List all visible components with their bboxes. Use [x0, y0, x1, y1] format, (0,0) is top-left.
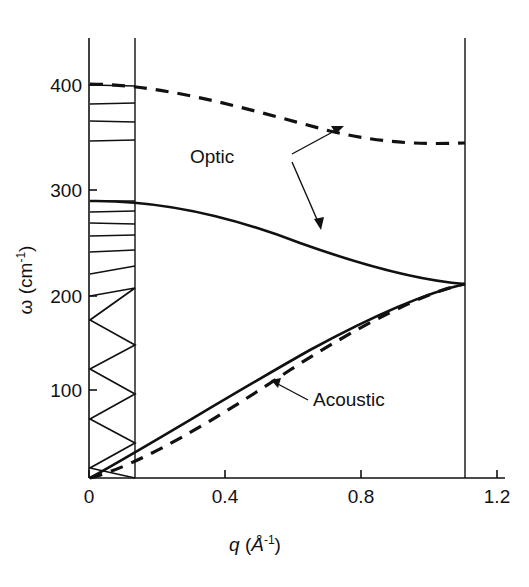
- folded-band-385: [90, 103, 135, 104]
- optic-dashed-curve: [90, 84, 465, 144]
- x-axis-title-symbol: q: [229, 534, 240, 555]
- y-axis-title: ω (cm-1): [14, 246, 36, 315]
- y-tick-labels: 400 300 200 100: [50, 75, 82, 401]
- acoustic-label: Acoustic: [313, 389, 385, 410]
- x-axis-title-paren-open: (: [240, 534, 252, 555]
- y-tick-marks: [89, 85, 97, 390]
- optic-solid-curve: [90, 201, 465, 284]
- y-axis-title-symbol: ω: [15, 299, 36, 314]
- axis-lines: [89, 38, 505, 478]
- svg-text:ω (cm-1): ω (cm-1): [14, 246, 36, 315]
- y-axis-title-paren-open: (: [15, 287, 36, 299]
- x-tick-label-0: 0: [84, 486, 95, 507]
- y-axis-title-paren-close: ): [15, 246, 36, 252]
- x-tick-label-0-8: 0.8: [348, 486, 374, 507]
- folded-optic-bands: [90, 85, 135, 274]
- y-tick-label-300: 300: [50, 180, 82, 201]
- folded-band-259: [90, 250, 135, 252]
- y-tick-label-200: 200: [50, 286, 82, 307]
- folded-band-352: [90, 140, 135, 141]
- x-tick-label-0-4: 0.4: [212, 486, 239, 507]
- x-axis-title-paren-close: ): [275, 534, 281, 555]
- optic-label: Optic: [190, 146, 234, 167]
- phonon-dispersion-figure: 400 300 200 100 0 0.4 0.8 1.2 q (Å-1) ω …: [0, 0, 529, 587]
- y-tick-label-400: 400: [50, 75, 82, 96]
- folded-band-288: [90, 211, 135, 212]
- folded-band-280: [90, 223, 135, 224]
- x-tick-marks: [89, 470, 497, 478]
- acoustic-zigzag-path: [90, 288, 135, 478]
- annotation-acoustic: Acoustic: [271, 378, 385, 410]
- x-axis-title-unit: Å: [250, 534, 264, 555]
- optic-arrow-down-shaft: [292, 162, 319, 224]
- x-axis-title: q (Å-1): [229, 533, 281, 555]
- optic-arrow-down-head: [314, 217, 324, 230]
- y-axis-title-unit: cm: [15, 263, 36, 288]
- x-tick-labels: 0 0.4 0.8 1.2: [84, 486, 511, 507]
- acoustic-arrow-shaft: [276, 383, 308, 400]
- folded-band-272: [90, 235, 135, 236]
- optic-arrow-up-shaft: [292, 128, 340, 154]
- svg-text:q (Å-1): q (Å-1): [229, 533, 281, 555]
- folded-band-240: [90, 266, 135, 274]
- x-axis-title-exponent: -1: [264, 533, 275, 547]
- y-axis-title-exponent: -1: [14, 252, 28, 263]
- chart-svg: 400 300 200 100 0 0.4 0.8 1.2 q (Å-1) ω …: [0, 0, 529, 587]
- folded-acoustic-zigzag: [90, 288, 135, 478]
- y-tick-label-100: 100: [50, 380, 82, 401]
- folded-band-368: [90, 121, 135, 122]
- x-tick-label-1-2: 1.2: [484, 486, 510, 507]
